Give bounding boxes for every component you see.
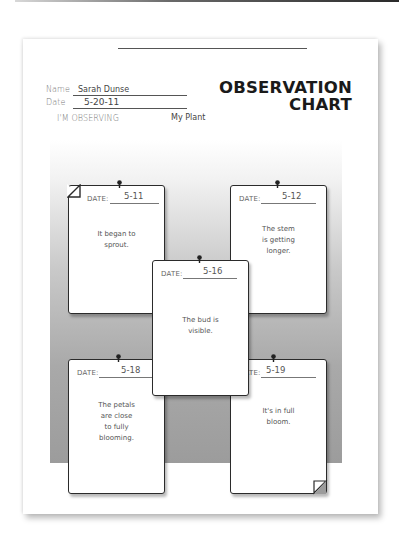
pushpin-icon bbox=[117, 180, 122, 188]
date-value: 5-20-11 bbox=[84, 97, 119, 107]
note-text: It began to sprout. bbox=[69, 229, 164, 251]
title-line-2: CHART bbox=[219, 96, 352, 113]
title-line-1: OBSERVATION bbox=[219, 79, 352, 96]
date-value: 5-11 bbox=[124, 191, 143, 201]
date-label: Date bbox=[46, 98, 66, 107]
pushpin-icon bbox=[197, 255, 202, 263]
pushpin-icon bbox=[271, 354, 276, 362]
observing-label: I'M OBSERVING bbox=[57, 114, 119, 123]
name-value: Sarah Dunse bbox=[78, 85, 129, 94]
observation-sheet: Name Sarah Dunse Date 5-20-11 I'M OBSERV… bbox=[23, 39, 378, 514]
observing-field-line bbox=[118, 39, 307, 49]
observation-card-3: DATE: 5-16 The bud is visible. bbox=[152, 260, 249, 396]
folded-corner-outline-icon bbox=[67, 184, 82, 199]
date-label: DATE: bbox=[161, 270, 183, 278]
date-value: 5-19 bbox=[266, 365, 285, 375]
page-title: OBSERVATION CHART bbox=[219, 79, 352, 113]
note-text: It's in full bloom. bbox=[231, 406, 326, 428]
note-text: The bud is visible. bbox=[153, 315, 248, 337]
date-label: DATE: bbox=[87, 195, 109, 203]
pushpin-icon bbox=[116, 354, 121, 362]
observing-value: My Plant bbox=[171, 113, 205, 122]
note-text: The petals are close to fully blooming. bbox=[69, 400, 164, 444]
name-label: Name bbox=[46, 85, 70, 94]
date-label: DATE: bbox=[239, 195, 261, 203]
top-edge-bar bbox=[15, 0, 399, 2]
pushpin-icon bbox=[275, 180, 280, 188]
observation-card-1: DATE: 5-11 It began to sprout. bbox=[68, 185, 165, 314]
curled-corner-icon bbox=[313, 480, 328, 495]
date-value: 5-16 bbox=[203, 266, 222, 276]
note-text: The stem is getting longer. bbox=[231, 224, 326, 257]
date-value: 5-12 bbox=[282, 191, 301, 201]
observation-card-4: DATE: 5-18 The petals are close to fully… bbox=[68, 359, 165, 494]
date-value: 5-18 bbox=[121, 365, 140, 375]
date-label: DATE: bbox=[77, 369, 99, 377]
bulletin-board: DATE: 5-11 It began to sprout. DATE: 5-1… bbox=[50, 140, 342, 463]
